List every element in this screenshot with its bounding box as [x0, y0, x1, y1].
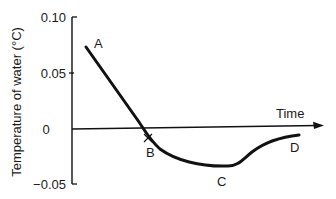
point-label-b: B: [146, 145, 155, 160]
point-label-a: A: [94, 36, 103, 51]
y-axis-title: Temperature of water (°C): [9, 27, 24, 177]
y-tick-label-0.05: 0.05: [41, 66, 66, 81]
point-label-d: D: [290, 140, 299, 155]
x-axis: [72, 126, 318, 130]
x-axis-title: Time: [276, 106, 304, 121]
y-tick-label-0: 0: [42, 122, 49, 137]
temperature-curve: [86, 47, 299, 166]
y-tick-label-neg0.05: −0.05: [33, 177, 66, 192]
x-axis-arrowhead: [313, 122, 324, 129]
point-label-c: C: [217, 174, 226, 189]
y-tick-label-0.10: 0.10: [41, 10, 66, 25]
temperature-chart: Temperature of water (°C) 0.10 0.05 0 −0…: [0, 0, 336, 199]
